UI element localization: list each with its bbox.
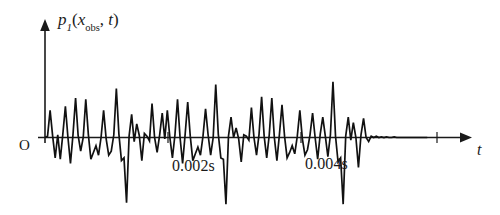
signal-figure: p1(xobs, t) O t 0.002s 0.004s (0, 0, 500, 215)
x-axis-label: t (477, 142, 481, 158)
y-axis-symbol: p (58, 10, 67, 29)
y-axis-arg1-subscript: obs (85, 22, 100, 33)
y-axis-arrowhead (40, 19, 50, 31)
y-axis-label: p1(xobs, t) (58, 11, 119, 32)
time-annotation-1: 0.004s (305, 156, 348, 172)
y-axis-subscript: 1 (67, 21, 73, 33)
origin-label: O (19, 138, 30, 153)
y-axis-close-paren: ) (113, 10, 119, 29)
time-annotation-0: 0.002s (172, 158, 215, 174)
x-axis-arrowhead (460, 133, 472, 143)
signal-waveform (45, 82, 427, 204)
plot-canvas (0, 0, 500, 215)
